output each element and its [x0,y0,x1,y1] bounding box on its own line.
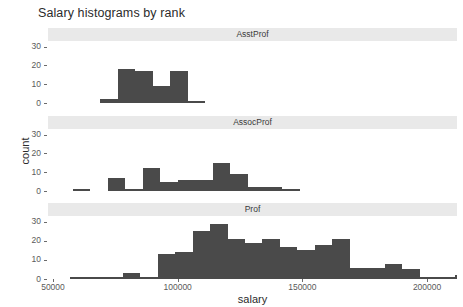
histogram-bar [108,178,125,191]
histogram-bar [123,273,140,279]
facet-strip-label: Prof [245,205,261,214]
page-title: Salary histograms by rank [38,6,185,20]
y-tick-mark [44,260,47,261]
histogram-bar [88,277,105,279]
histogram-bar [315,245,332,279]
y-tick-mark [44,172,47,173]
x-tick-label: 200000 [397,283,457,292]
y-tick-label: 20 [13,236,41,245]
facet-strip-assocprof: AssocProf [48,116,457,129]
histogram-bar [262,239,279,279]
y-tick-label: 10 [13,255,41,264]
histogram-bar [332,239,349,279]
y-tick-label: 30 [13,42,41,51]
histogram-bar [420,277,437,279]
histogram-bar [143,168,160,191]
histogram-bar [280,247,297,279]
histogram-bar [455,275,458,279]
histogram-bar [118,69,135,103]
facet-strip-prof: Prof [48,203,457,216]
histogram-bar [228,239,245,279]
x-tick-label: 150000 [272,283,332,292]
y-tick-mark [44,135,47,136]
y-tick-mark [44,153,47,154]
histogram-bar [230,174,247,191]
y-tick-mark [44,103,47,104]
histogram-bar [193,231,210,279]
histogram-bar [135,71,152,103]
histogram-bar [402,269,419,279]
plot-area-asstprof [48,41,457,103]
y-tick-label: 0 [13,187,41,196]
histogram-bar [70,277,87,279]
y-tick-mark [44,47,47,48]
y-tick-mark [44,279,47,280]
histogram-bar [160,182,177,191]
y-tick-label: 10 [13,80,41,89]
y-tick-mark [44,241,47,242]
plot-area-prof [48,216,457,279]
facet-panel-prof: Prof [48,203,457,279]
y-tick-label: 20 [13,149,41,158]
facet-strip-label: AssocProf [233,118,272,127]
y-tick-label: 30 [13,217,41,226]
y-tick-label: 0 [13,99,41,108]
facet-panel-asstprof: AsstProf [48,28,457,103]
histogram-bar [367,268,384,279]
y-tick-mark [44,222,47,223]
histogram-bar [195,180,212,191]
histogram-bar [73,189,90,191]
y-tick-mark [44,191,47,192]
histogram-bar [188,101,205,103]
facet-panel-assocprof: AssocProf [48,116,457,191]
plot-area-assocprof [48,129,457,191]
histogram-bar [140,277,157,279]
chart-root: Salary histograms by rank count salary A… [0,0,463,307]
histogram-bar [385,264,402,279]
histogram-bar [178,180,195,191]
facet-strip-label: AsstProf [236,30,268,39]
y-tick-label: 20 [13,61,41,70]
histogram-bar [153,86,170,103]
x-axis-title: salary [48,293,457,305]
histogram-bar [350,268,367,279]
histogram-bar [100,99,117,103]
histogram-bar [282,189,299,191]
histogram-bar [213,163,230,191]
histogram-bar [175,252,192,279]
histogram-bar [265,187,282,191]
histogram-bar [437,277,454,279]
y-tick-mark [44,84,47,85]
histogram-bar [170,71,187,103]
histogram-bar [158,254,175,279]
histogram-bar [248,187,265,191]
y-tick-label: 0 [13,275,41,284]
histogram-bar [210,224,227,279]
histogram-bar [125,189,142,191]
x-tick-label: 50000 [23,283,83,292]
y-tick-label: 30 [13,130,41,139]
histogram-bar [297,250,314,279]
y-tick-label: 10 [13,168,41,177]
histogram-bar [245,243,262,279]
facet-strip-asstprof: AsstProf [48,28,457,41]
histogram-bar [105,277,122,279]
x-tick-label: 100000 [148,283,208,292]
y-tick-mark [44,65,47,66]
